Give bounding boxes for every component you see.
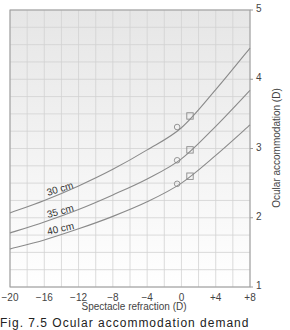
y-tick-label: 4 <box>256 72 262 83</box>
x-tick-label: +8 <box>244 292 256 303</box>
x-tick-label: −16 <box>36 292 53 303</box>
y-axis-ticks: 12345 <box>250 3 262 291</box>
x-axis-label: Spectacle refraction (D) <box>81 301 186 312</box>
y-axis-label: Ocular accommodation (D) <box>271 88 282 207</box>
x-tick-label: +4 <box>210 292 222 303</box>
y-tick-label: 2 <box>256 211 262 222</box>
y-tick-label: 1 <box>256 280 262 291</box>
figure-caption: Fig. 7.5 Ocular accommodation demand <box>0 316 290 330</box>
x-tick-label: −20 <box>2 292 19 303</box>
y-tick-label: 5 <box>256 3 262 14</box>
y-tick-label: 3 <box>256 142 262 153</box>
